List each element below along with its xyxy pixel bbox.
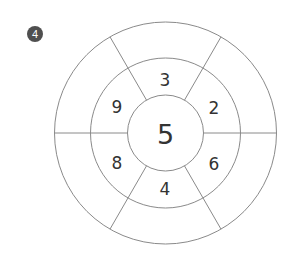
middle-ring-number-lower-right: 6 (209, 156, 220, 173)
middle-ring-number-top: 3 (160, 72, 171, 89)
spoke-line (185, 37, 222, 100)
spoke-line (110, 37, 147, 100)
middle-ring-number-bottom: 4 (160, 181, 171, 198)
number-wheel-diagram (0, 0, 292, 253)
center-number: 5 (157, 121, 174, 148)
middle-ring-number-upper-right: 2 (209, 100, 220, 117)
spoke-line (185, 166, 222, 229)
middle-ring-number-lower-left: 8 (112, 155, 123, 172)
spoke-line (110, 166, 147, 229)
middle-ring-number-upper-left: 9 (112, 99, 123, 116)
